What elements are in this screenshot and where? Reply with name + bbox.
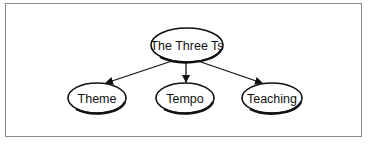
node-tempo: Tempo	[156, 83, 214, 114]
node-root-label: The Three Ts	[150, 39, 223, 53]
node-tempo-label: Tempo	[166, 92, 204, 106]
node-teaching: Teaching	[242, 83, 302, 114]
node-root: The Three Ts	[150, 28, 223, 62]
edges	[106, 61, 262, 83]
tree-diagram: The Three Ts Theme Tempo Teaching	[0, 0, 369, 144]
node-theme-label: Theme	[78, 92, 117, 106]
edge-root-teaching	[198, 61, 262, 83]
edge-root-theme	[106, 61, 172, 83]
node-theme: Theme	[68, 83, 126, 114]
node-teaching-label: Teaching	[247, 92, 297, 106]
